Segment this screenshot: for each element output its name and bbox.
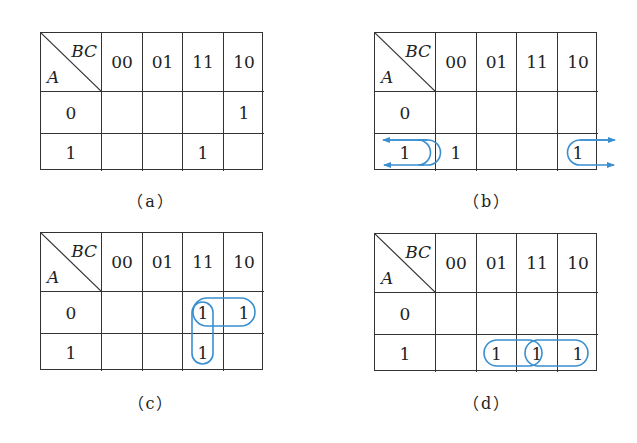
map-cell: 1 [224,292,264,334]
map-cell: 1 [183,134,224,171]
map-cell [436,335,477,372]
row-header: 0 [375,293,436,335]
map-cell: 1 [558,134,598,171]
row-header: 1 [375,335,436,372]
map-cell [143,292,183,334]
map-cell: 1 [183,334,224,371]
row-header: 1 [41,334,102,371]
col-header: 01 [477,234,517,293]
map-cell: 1 [436,134,477,171]
map-cell [477,293,517,335]
map-cell [517,92,558,134]
col-header: 11 [517,234,558,293]
map-cell [102,334,143,371]
caption-d: （d） [463,390,511,414]
col-var-label: BC [405,242,431,262]
col-header: 01 [477,33,517,92]
col-header: 11 [183,233,224,292]
col-header: 00 [102,33,143,92]
caption-b: （b） [463,188,511,212]
map-cell: 1 [477,335,517,372]
map-cell: 1 [558,335,598,372]
row-var-label: A [47,67,59,87]
map-cell [224,134,264,171]
map-cell: 1 [517,335,558,372]
corner-cell: BC A [375,33,436,92]
map-cell [102,292,143,334]
row-var-label: A [381,268,393,288]
col-header: 11 [517,33,558,92]
col-var-label: BC [71,241,97,261]
kmap-b: BC A 00 01 11 10 0 1 1 1 [374,32,597,170]
caption-c: （c） [128,390,175,414]
map-cell [102,134,143,171]
map-cell [558,293,598,335]
map-cell [102,92,143,134]
col-header: 10 [224,33,264,92]
map-cell [436,92,477,134]
row-header: 0 [41,92,102,134]
caption-a: （a） [127,188,175,212]
row-header: 0 [41,292,102,334]
corner-cell: BC A [375,234,436,293]
corner-cell: BC A [41,33,102,92]
row-var-label: A [47,267,59,287]
kmap-d: BC A 00 01 11 10 0 1 1 1 1 [374,233,597,371]
map-cell [183,92,224,134]
col-header: 10 [558,33,598,92]
col-header: 01 [143,33,183,92]
kmap-a: BC A 00 01 11 10 0 1 1 1 [40,32,263,170]
map-cell [477,134,517,171]
map-cell [224,334,264,371]
map-cell [143,134,183,171]
kmap-c: BC A 00 01 11 10 0 1 1 1 1 [40,232,263,370]
map-cell [517,293,558,335]
row-header: 1 [375,134,436,171]
map-cell [558,92,598,134]
col-header: 00 [436,33,477,92]
map-cell [477,92,517,134]
row-var-label: A [381,67,393,87]
corner-cell: BC A [41,233,102,292]
col-header: 10 [558,234,598,293]
col-header: 00 [436,234,477,293]
map-cell [143,92,183,134]
row-header: 1 [41,134,102,171]
col-header: 01 [143,233,183,292]
map-cell [143,334,183,371]
map-cell: 1 [183,292,224,334]
col-var-label: BC [71,41,97,61]
col-header: 00 [102,233,143,292]
row-header: 0 [375,92,436,134]
map-cell [436,293,477,335]
map-cell [517,134,558,171]
col-var-label: BC [405,41,431,61]
col-header: 10 [224,233,264,292]
col-header: 11 [183,33,224,92]
map-cell: 1 [224,92,264,134]
